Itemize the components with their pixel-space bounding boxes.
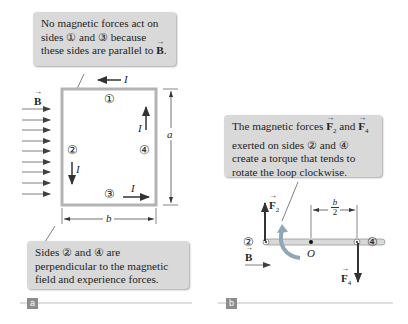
panel-a-tag: a [27, 298, 38, 309]
current-label-top: I [124, 73, 128, 85]
callout-text: create a torque that tends to [232, 152, 374, 166]
callout-perpendicular-sides: Sides ② and ④ are perpendicular to the m… [27, 241, 189, 289]
callout-text: and [336, 120, 358, 132]
dimension-a-label: a [167, 128, 173, 140]
side-4-label: ④ [367, 235, 378, 250]
side-2-label: ② [67, 143, 78, 158]
side-4-marker: ④ [94, 246, 104, 258]
callout-text: perpendicular to the magnetic [35, 260, 181, 274]
side-2-marker: ② [62, 246, 72, 258]
dimension-b-label: b [106, 212, 112, 224]
side-3-label: ③ [104, 187, 115, 202]
current-label-left: I [76, 163, 80, 175]
callout-pointer [282, 182, 298, 221]
callout-parallel-sides: No magnetic forces act on sides ① and ③ … [33, 12, 176, 66]
side-1-label: ① [104, 92, 115, 107]
current-label-bottom: I [131, 182, 135, 194]
field-label-b: →B [245, 251, 252, 263]
force-f2-label: →F2 [269, 199, 279, 214]
current-label-right: I [138, 122, 142, 134]
callout-text: and [317, 139, 339, 151]
force-f4-label: →F4 [341, 272, 351, 287]
callout-text: are [104, 246, 120, 258]
pivot-label: O [307, 247, 315, 259]
callout-text: The magnetic forces [232, 120, 326, 132]
callout-text: exerted on sides [232, 139, 307, 151]
callout-text: rotate the loop clockwise. [232, 166, 374, 180]
callout-torque: The magnetic forces →F2 and →F4 exerted … [224, 115, 382, 177]
force-subscript: 4 [365, 127, 369, 135]
callout-text: and [76, 31, 98, 43]
panel-b-tag: b [226, 298, 237, 309]
side-1-marker: ① [66, 31, 76, 43]
half-b-label: b 2 [331, 198, 339, 217]
side-2-marker: ② [307, 139, 317, 151]
field-label-a: →B [34, 95, 41, 107]
side-3-marker: ③ [98, 31, 108, 43]
callout-text: sides [41, 31, 66, 43]
magnetic-field-arrows [22, 109, 50, 194]
side-4-label: ④ [139, 143, 150, 158]
callout-text: and [72, 246, 94, 258]
callout-text: these sides are parallel to [41, 44, 156, 56]
callout-text: field and experience forces. [35, 273, 181, 287]
side-4-marker: ④ [339, 139, 349, 151]
callout-text: No magnetic forces act on [41, 17, 158, 29]
pivot-point [309, 240, 313, 244]
callout-text: because [108, 31, 146, 43]
callout-text: Sides [35, 246, 62, 258]
